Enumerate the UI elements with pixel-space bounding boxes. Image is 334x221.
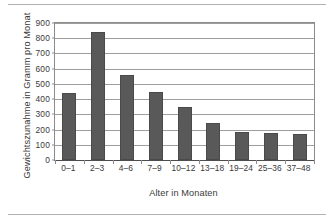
x-axis-tick-label: 19–24: [229, 163, 253, 173]
bar-cell: [84, 23, 113, 160]
bar[interactable]: [206, 123, 220, 160]
y-axis-tick-label: 600: [35, 64, 50, 74]
y-axis-tick-label: 900: [35, 18, 50, 28]
bar-cell: [285, 23, 314, 160]
bar-cell: [199, 23, 228, 160]
x-axis-tick-label: 37–48: [287, 163, 311, 173]
x-axis-tick-mark: [314, 160, 315, 164]
x-axis-tick-mark: [55, 160, 56, 164]
x-axis-tick-label: 13–18: [200, 163, 224, 173]
bar-cell: [141, 23, 170, 160]
bar[interactable]: [235, 132, 249, 160]
figure: Gewichtszunahme in Gramm pro Monat 01002…: [0, 0, 334, 221]
y-axis-tick-label: 300: [35, 109, 50, 119]
bar[interactable]: [264, 133, 278, 160]
x-axis-tick-label: 0–1: [61, 163, 75, 173]
bar[interactable]: [149, 92, 163, 160]
top-rule: [8, 4, 326, 5]
bar[interactable]: [293, 134, 307, 160]
bar-cell: [113, 23, 142, 160]
y-axis-tick-label: 400: [35, 94, 50, 104]
x-axis-tick-mark: [113, 160, 114, 164]
x-axis-title: Alter in Monaten: [54, 188, 313, 198]
bar-cell: [228, 23, 257, 160]
x-axis-tick-label: 4–6: [119, 163, 133, 173]
y-axis-tick-label: 800: [35, 33, 50, 43]
x-axis-tick-mark: [141, 160, 142, 164]
y-axis-tick-label: 500: [35, 79, 50, 89]
bar[interactable]: [91, 32, 105, 160]
y-axis-tick-label: 100: [35, 140, 50, 150]
bar[interactable]: [62, 93, 76, 160]
bar-cell: [256, 23, 285, 160]
y-axis-tick-label: 200: [35, 125, 50, 135]
y-axis-tick-label: 700: [35, 48, 50, 58]
x-axis-tick-label: 10–12: [172, 163, 196, 173]
bar-cell: [55, 23, 84, 160]
x-axis-tick-label: 7–9: [148, 163, 162, 173]
bar-cell: [170, 23, 199, 160]
bar[interactable]: [178, 107, 192, 160]
y-axis-title: Gewichtszunahme in Gramm pro Monat: [20, 8, 34, 183]
x-axis-tick-mark: [84, 160, 85, 164]
x-axis-tick-label: 2–3: [90, 163, 104, 173]
bar-series: [55, 23, 314, 160]
bar[interactable]: [120, 75, 134, 160]
y-axis-tick-label: 0: [45, 155, 50, 165]
x-axis-tick-label: 25–36: [258, 163, 282, 173]
plot-area: 0100200300400500600700800900: [54, 22, 315, 161]
bottom-rule: [8, 214, 326, 215]
